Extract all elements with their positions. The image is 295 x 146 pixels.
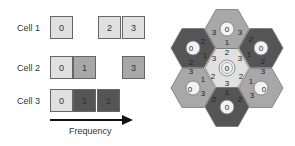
hex-center-edge-upper-left: 3 bbox=[212, 54, 217, 63]
hex-bottom-edge-upper-left: 2 bbox=[212, 95, 217, 104]
hex-bottom-right-label: 0 bbox=[262, 85, 267, 94]
hex-top-edge-left: 3 bbox=[212, 28, 217, 37]
hex-center-edge-upper-right: 3 bbox=[238, 54, 243, 63]
hex-top-edge-right: 3 bbox=[238, 28, 243, 37]
hex-bottom-left-edge-top: 3 bbox=[189, 67, 194, 76]
hex-bottom-edge-upper-right: 2 bbox=[238, 95, 243, 104]
hex-top-right-edge-bottom: 2 bbox=[261, 57, 266, 66]
hex-top-left-edge-lower-right: 1 bbox=[203, 51, 208, 60]
hex-top-left-edge-upper-right: 2 bbox=[201, 37, 206, 46]
hex-top-right-label: 0 bbox=[259, 44, 264, 53]
hex-bottom-right-edge-top: 3 bbox=[261, 67, 266, 76]
hex-bottom-edge-top: 1 bbox=[225, 88, 230, 97]
hex-top-left-label: 0 bbox=[189, 44, 194, 53]
hex-bottom-left-edge-right: 1 bbox=[201, 75, 206, 84]
hex-bottom-right-edge-left: 1 bbox=[249, 77, 254, 86]
hex-center-edge-top: 2 bbox=[225, 48, 230, 57]
hex-top-left-edge-bottom: 2 bbox=[189, 58, 194, 67]
hex-bottom-left-edge-lower-right: 3 bbox=[201, 89, 206, 98]
hex-bottom-right-edge-lower-left: 3 bbox=[250, 91, 255, 100]
hex-top-right-edge-lower-left: 1 bbox=[247, 50, 252, 59]
hex-center-edge-bottom: 3 bbox=[225, 79, 230, 88]
hex-bottom-left-label: 0 bbox=[188, 85, 193, 94]
hex-top-edge-bottom: 1 bbox=[225, 38, 230, 47]
hex-center-label: 0 bbox=[225, 64, 230, 73]
hex-bottom-label: 0 bbox=[225, 103, 230, 112]
hex-center-edge-lower-left: 2 bbox=[211, 72, 216, 81]
hex-top-right-edge-upper-left: 2 bbox=[249, 35, 254, 44]
hex-center-edge-lower-right: 2 bbox=[239, 72, 244, 81]
hex-top-label: 0 bbox=[225, 25, 230, 34]
hex-cell-diagram: 0 2 3 3 2 2 3 0 3 3 1 0 2 1 2 0 2 1 2 0 … bbox=[0, 0, 295, 146]
